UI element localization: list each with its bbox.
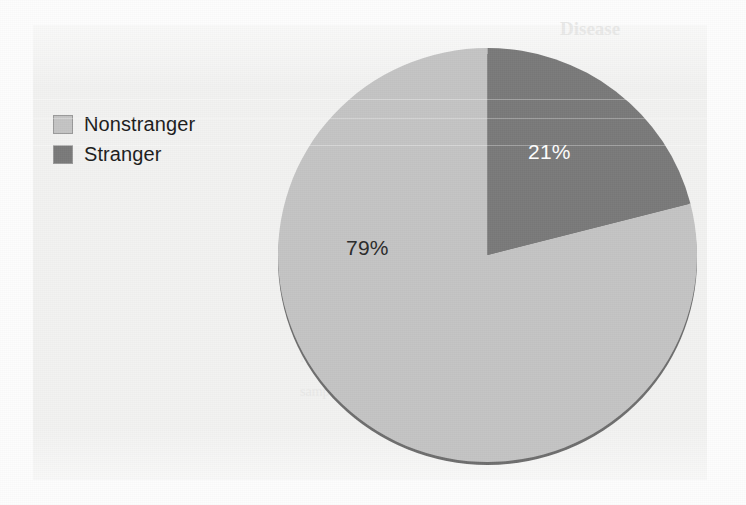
chart-legend: Nonstranger Stranger (53, 114, 195, 164)
legend-item-nonstranger[interactable]: Nonstranger (53, 114, 195, 134)
pie-label-nonstranger: 79% (346, 236, 389, 260)
bleed-through-text-line-1: Disease (560, 18, 620, 40)
pie-label-stranger: 21% (528, 140, 571, 164)
pie-chart-figure: Disease relationship to the assailant by… (0, 0, 746, 505)
pie-chart: 21% 79% (278, 48, 697, 465)
legend-item-stranger[interactable]: Stranger (53, 144, 195, 164)
legend-swatch-nonstranger-icon (53, 115, 73, 134)
pie-slices-svg (278, 48, 697, 462)
legend-label-nonstranger: Nonstranger (84, 114, 195, 134)
legend-swatch-stranger-icon (53, 145, 73, 164)
legend-label-stranger: Stranger (84, 144, 162, 164)
